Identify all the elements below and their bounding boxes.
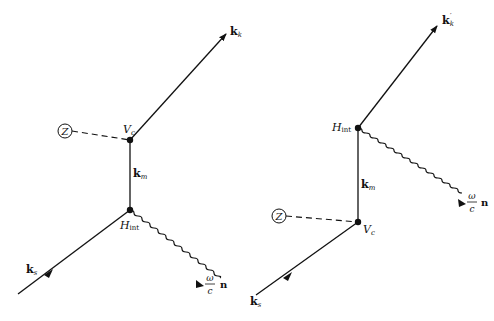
photon-label-num: ω: [468, 191, 476, 201]
vertex-hint-label: Hint: [119, 219, 139, 232]
right-diagram: kk′ Hint ω c n km Z Vc ks: [250, 12, 489, 309]
outgoing-electron-line: [130, 34, 226, 140]
photon-arrow-icon: [196, 280, 204, 288]
incoming-electron-label: ks: [26, 263, 38, 277]
intermediate-label: km: [361, 178, 376, 192]
photon-label-num: ω: [206, 273, 214, 283]
outgoing-electron-label: kk′: [442, 12, 454, 28]
left-diagram: kk Z Vc km Hint ks ω c n: [18, 25, 242, 296]
incoming-electron-line: [256, 222, 358, 295]
photon-label-den: c: [207, 286, 212, 296]
vertex-hint-label: Hint: [331, 121, 351, 134]
feynman-diagrams: kk Z Vc km Hint ks ω c n: [0, 0, 494, 321]
incoming-electron-label: ks: [250, 295, 262, 309]
coulomb-dashed-line: [72, 131, 130, 140]
incoming-arrow-icon: [283, 272, 292, 281]
outgoing-electron-line: [358, 26, 437, 128]
incoming-electron-line: [18, 210, 130, 294]
intermediate-label: km: [133, 167, 148, 181]
outgoing-electron-label: kk: [230, 25, 242, 39]
nucleus-label: Z: [61, 126, 70, 137]
vertex-vc-label: Vc: [363, 223, 375, 237]
photon-label-vec: n: [220, 279, 228, 290]
vertex-vc-label: Vc: [123, 123, 135, 137]
photon-label-vec: n: [481, 197, 489, 208]
coulomb-dashed-line: [286, 216, 358, 222]
photon-arrow-icon: [458, 199, 466, 207]
photon-wavy-line: [130, 210, 221, 278]
photon-label-den: c: [469, 204, 474, 214]
nucleus-label: Z: [275, 211, 284, 222]
